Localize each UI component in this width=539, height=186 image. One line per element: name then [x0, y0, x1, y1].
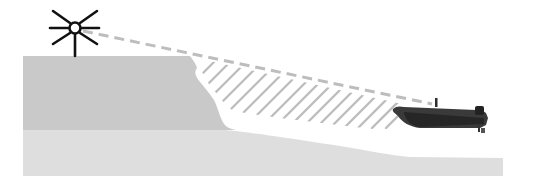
outboard-motor: [475, 106, 484, 115]
boat-antenna: [435, 98, 438, 107]
boat-with-outboard-motor: [393, 98, 488, 133]
seabed-slope: [23, 130, 503, 176]
cliff-landmass: [23, 56, 236, 130]
diagram-canvas: [0, 0, 539, 186]
